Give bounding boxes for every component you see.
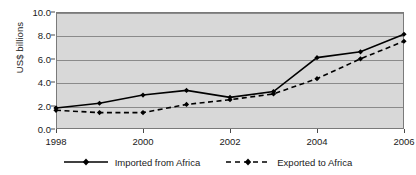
legend-label-exported: Exported to Africa <box>277 157 352 168</box>
x-tick-mark <box>317 129 318 133</box>
x-tick-label: 2006 <box>393 136 414 147</box>
x-tick-mark <box>230 129 231 133</box>
x-tick-label: 2004 <box>306 136 327 147</box>
legend-swatch-solid <box>64 157 108 167</box>
legend-swatch-dashed <box>226 157 270 167</box>
y-tick-mark <box>51 105 55 106</box>
x-tick-mark <box>143 129 144 133</box>
y-tick-mark <box>51 58 55 59</box>
legend-label-imported: Imported from Africa <box>115 157 201 168</box>
y-tick-label: 6.0 <box>4 53 56 64</box>
x-tick-mark <box>404 129 405 133</box>
x-tick-label: 1998 <box>45 136 66 147</box>
y-axis-ticks: 0.02.04.06.08.010.0 <box>0 12 56 129</box>
y-tick-label: 8.0 <box>4 30 56 41</box>
legend-entry-exported: Exported to Africa <box>226 157 352 168</box>
y-tick-mark <box>51 129 55 130</box>
gridline <box>57 83 403 84</box>
y-tick-mark <box>51 82 55 83</box>
gridline <box>57 60 403 61</box>
x-tick-mark <box>56 129 57 133</box>
x-axis-ticks: 19982000200220042006 <box>56 129 404 153</box>
x-tick-label: 2000 <box>132 136 153 147</box>
x-tick-label: 2002 <box>219 136 240 147</box>
gridline <box>57 13 403 14</box>
plot-area <box>56 12 404 129</box>
gridline <box>57 107 403 108</box>
y-tick-label: 0.0 <box>4 124 56 135</box>
chart-legend: Imported from Africa Exported to Africa <box>0 152 416 172</box>
line-chart: US$ billions 0.02.04.06.08.010.0 1998200… <box>0 0 416 175</box>
y-tick-mark <box>51 12 55 13</box>
y-tick-label: 10.0 <box>4 7 56 18</box>
y-tick-mark <box>51 35 55 36</box>
gridline <box>57 36 403 37</box>
y-tick-label: 2.0 <box>4 100 56 111</box>
legend-entry-imported: Imported from Africa <box>64 157 201 168</box>
y-tick-label: 4.0 <box>4 77 56 88</box>
